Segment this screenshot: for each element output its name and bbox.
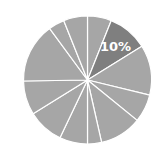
pie-labels: 10%	[100, 39, 131, 54]
slice-data-label: 10%	[100, 39, 131, 54]
pie-slices	[24, 16, 152, 144]
pie-chart: 10%	[0, 0, 157, 156]
